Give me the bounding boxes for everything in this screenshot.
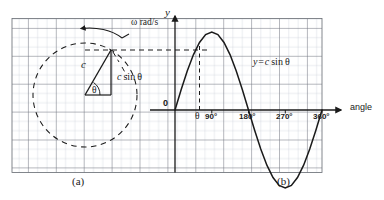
figure-canvas <box>0 0 384 200</box>
y-axis-label: y <box>165 7 170 18</box>
x-tick-180: 180° <box>239 113 256 121</box>
grid-background <box>12 19 328 179</box>
panel-b-caption: (b) <box>277 176 290 187</box>
curve-equation-label: y = c sin θ <box>253 57 290 67</box>
panel-a-caption: (a) <box>72 176 84 187</box>
origin-label: 0 <box>163 99 168 108</box>
x-tick-90: 90° <box>205 113 217 121</box>
radius-label-c: c <box>81 59 86 70</box>
x-tick-270: 270° <box>276 113 293 121</box>
omega-label: ω rad/s <box>131 18 158 28</box>
x-axis-label: angle <box>350 103 372 112</box>
x-tick-360: 360° <box>313 113 330 121</box>
c-sin-theta-label: c sin θ <box>117 72 142 82</box>
theta-label-a: θ <box>92 86 97 96</box>
theta-label-b: θ <box>195 112 200 122</box>
